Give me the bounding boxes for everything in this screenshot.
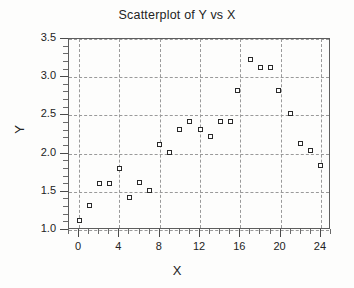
y-tick-minor [63,214,68,215]
y-tick-major [60,38,68,39]
data-point [288,111,293,116]
chart-title: Scatterplot of Y vs X [0,8,354,22]
x-tick-label: 4 [103,240,133,252]
data-point [117,166,122,171]
y-tick-minor [63,206,68,207]
y-tick-label: 2.5 [16,107,56,119]
y-tick-label: 1.5 [16,184,56,196]
y-tick-minor [63,176,68,177]
x-tick-minor [209,229,210,234]
data-point [137,180,142,185]
y-tick-minor [63,183,68,184]
data-point [177,127,182,132]
data-point [276,88,281,93]
x-tick-label: 8 [144,240,174,252]
x-tick-label: 16 [224,240,254,252]
x-tick-major [199,229,200,237]
x-tick-major [280,229,281,237]
x-tick-minor [68,229,69,234]
data-point [187,119,192,124]
data-point [218,119,223,124]
y-tick-minor [63,107,68,108]
data-point [318,163,323,168]
data-point [77,218,82,223]
data-point [298,141,303,146]
scatterplot-figure: Scatterplot of Y vs X Y X 1.01.52.02.53.… [0,0,354,288]
x-tick-minor [290,229,291,234]
x-tick-major [159,229,160,237]
x-tick-label: 20 [265,240,295,252]
y-tick-minor [63,145,68,146]
y-tick-minor [63,221,68,222]
data-point [268,65,273,70]
y-tick-minor [63,84,68,85]
data-point [157,142,162,147]
data-points [69,39,329,228]
x-tick-minor [259,229,260,234]
x-axis-title: X [0,263,354,278]
y-tick-major [60,191,68,192]
x-tick-minor [179,229,180,234]
x-tick-minor [300,229,301,234]
x-tick-minor [249,229,250,234]
data-point [147,188,152,193]
y-tick-minor [63,198,68,199]
x-tick-label: 12 [184,240,214,252]
data-point [198,127,203,132]
x-tick-label: 24 [305,240,335,252]
data-point [167,150,172,155]
y-tick-minor [63,137,68,138]
x-tick-minor [88,229,89,234]
data-point [127,195,132,200]
y-tick-label: 2.0 [16,146,56,158]
y-tick-minor [63,61,68,62]
x-tick-minor [229,229,230,234]
data-point [87,203,92,208]
y-tick-minor [63,130,68,131]
data-point [258,65,263,70]
data-point [107,181,112,186]
y-tick-major [60,76,68,77]
y-tick-minor [63,69,68,70]
data-point [97,181,102,186]
y-tick-minor [63,53,68,54]
x-tick-major [239,229,240,237]
x-tick-major [118,229,119,237]
x-tick-minor [330,229,331,234]
data-point [248,57,253,62]
data-point [308,148,313,153]
data-point [228,119,233,124]
y-tick-minor [63,122,68,123]
y-axis-title: Y [12,119,27,141]
x-tick-minor [310,229,311,234]
y-tick-minor [63,46,68,47]
x-tick-minor [270,229,271,234]
x-tick-label: 0 [63,240,93,252]
y-tick-minor [63,160,68,161]
plot-area [68,38,330,229]
y-tick-minor [63,99,68,100]
y-tick-major [60,229,68,230]
x-tick-minor [189,229,190,234]
y-tick-label: 3.5 [16,31,56,43]
x-tick-minor [128,229,129,234]
x-tick-major [320,229,321,237]
x-tick-minor [219,229,220,234]
y-tick-minor [63,168,68,169]
x-tick-minor [139,229,140,234]
y-tick-label: 3.0 [16,69,56,81]
y-tick-label: 1.0 [16,222,56,234]
x-tick-minor [169,229,170,234]
x-tick-minor [149,229,150,234]
data-point [208,134,213,139]
y-tick-major [60,153,68,154]
x-tick-minor [108,229,109,234]
y-tick-major [60,114,68,115]
data-point [235,88,240,93]
x-tick-minor [98,229,99,234]
x-tick-major [78,229,79,237]
y-tick-minor [63,91,68,92]
